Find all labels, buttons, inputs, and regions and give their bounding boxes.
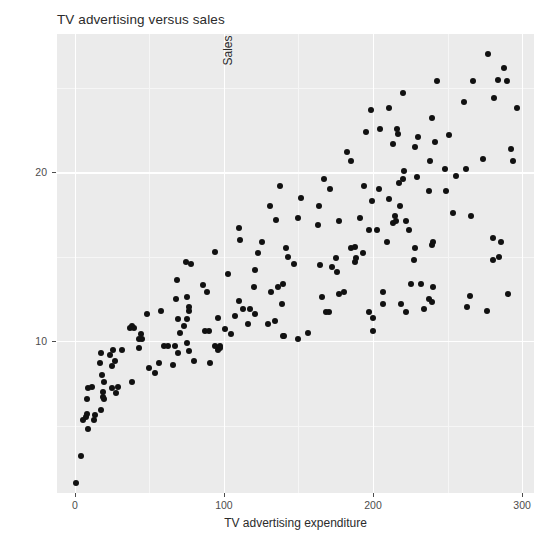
scatter-point bbox=[415, 134, 421, 140]
scatter-point bbox=[109, 363, 115, 369]
scatter-point bbox=[514, 105, 520, 111]
scatter-point bbox=[348, 158, 354, 164]
scatter-point bbox=[129, 379, 135, 385]
scatter-point bbox=[398, 301, 404, 307]
scatter-point bbox=[344, 149, 350, 155]
scatter-point bbox=[85, 426, 91, 432]
scatter-point bbox=[295, 215, 301, 221]
scatter-point bbox=[100, 394, 106, 400]
scatter-point bbox=[429, 299, 435, 305]
gridline-minor-vertical bbox=[448, 34, 449, 493]
gridline-major-vertical bbox=[75, 34, 76, 493]
scatter-point bbox=[259, 239, 265, 245]
plot-panel bbox=[57, 34, 534, 493]
scatter-point bbox=[172, 343, 178, 349]
scatter-point bbox=[268, 289, 274, 295]
scatter-point bbox=[97, 360, 103, 366]
scatter-point bbox=[470, 78, 476, 84]
gridline-minor-vertical bbox=[298, 34, 299, 493]
scatter-point bbox=[485, 51, 491, 57]
scatter-point bbox=[181, 323, 187, 329]
scatter-point bbox=[84, 396, 90, 402]
x-axis-label: TV advertising expenditure bbox=[57, 516, 534, 530]
scatter-point bbox=[501, 65, 507, 71]
scatter-point bbox=[204, 289, 210, 295]
scatter-point bbox=[421, 306, 427, 312]
scatter-point bbox=[505, 291, 511, 297]
scatter-point bbox=[251, 284, 257, 290]
scatter-point bbox=[333, 255, 339, 261]
x-tick-mark bbox=[75, 493, 76, 497]
scatter-point bbox=[508, 146, 514, 152]
scatter-point bbox=[361, 183, 367, 189]
scatter-point bbox=[232, 313, 238, 319]
scatter-point bbox=[429, 115, 435, 121]
scatter-point bbox=[316, 203, 322, 209]
scatter-point bbox=[443, 188, 449, 194]
scatter-point bbox=[319, 294, 325, 300]
gridline-minor-vertical bbox=[149, 34, 150, 493]
scatter-point bbox=[480, 156, 486, 162]
scatter-point bbox=[360, 250, 366, 256]
scatter-point bbox=[186, 304, 192, 310]
scatter-point bbox=[84, 411, 90, 417]
scatter-point bbox=[498, 239, 504, 245]
scatter-point bbox=[393, 218, 399, 224]
scatter-point bbox=[136, 345, 142, 351]
scatter-point bbox=[191, 358, 197, 364]
scatter-point bbox=[400, 90, 406, 96]
scatter-point bbox=[285, 254, 291, 260]
y-tick-label: 10 bbox=[35, 335, 47, 347]
scatter-point bbox=[255, 250, 261, 256]
scatter-point bbox=[317, 262, 323, 268]
y-tick-label: 20 bbox=[35, 166, 47, 178]
scatter-point bbox=[461, 99, 467, 105]
scatter-point bbox=[170, 362, 176, 368]
x-tick-mark bbox=[224, 493, 225, 497]
scatter-point bbox=[426, 188, 432, 194]
scatter-point bbox=[174, 277, 180, 283]
y-tick-mark bbox=[52, 341, 56, 342]
x-tick-label: 100 bbox=[215, 499, 233, 511]
scatter-point bbox=[334, 269, 340, 275]
gridline-minor-horizontal bbox=[57, 426, 534, 427]
scatter-point bbox=[215, 315, 221, 321]
scatter-point bbox=[91, 417, 97, 423]
scatter-point bbox=[408, 281, 414, 287]
scatter-point bbox=[321, 176, 327, 182]
scatter-point bbox=[131, 325, 137, 331]
scatter-point bbox=[327, 186, 333, 192]
scatter-point bbox=[467, 293, 473, 299]
scatter-point bbox=[432, 139, 438, 145]
scatter-point bbox=[113, 390, 119, 396]
gridline-major-vertical bbox=[522, 34, 523, 493]
scatter-point bbox=[374, 227, 380, 233]
scatter-point bbox=[377, 126, 383, 132]
scatter-point bbox=[341, 289, 347, 295]
scatter-point bbox=[414, 174, 420, 180]
scatter-point bbox=[298, 195, 304, 201]
scatter-point bbox=[427, 158, 433, 164]
scatter-point bbox=[403, 309, 409, 315]
scatter-point bbox=[89, 384, 95, 390]
scatter-point bbox=[326, 309, 332, 315]
scatter-point bbox=[390, 141, 396, 147]
scatter-point bbox=[228, 331, 234, 337]
scatter-point bbox=[376, 186, 382, 192]
scatter-point bbox=[158, 308, 164, 314]
x-tick-mark bbox=[373, 493, 374, 497]
scatter-point bbox=[418, 281, 424, 287]
scatter-point bbox=[184, 294, 190, 300]
scatter-point bbox=[98, 407, 104, 413]
scatter-point bbox=[144, 311, 150, 317]
x-tick-label: 0 bbox=[72, 499, 78, 511]
scatter-point bbox=[173, 296, 179, 302]
scatter-point bbox=[146, 365, 152, 371]
scatter-point bbox=[184, 316, 190, 322]
scatter-point bbox=[504, 78, 510, 84]
scatter-point bbox=[252, 311, 258, 317]
scatter-point bbox=[237, 237, 243, 243]
scatter-point bbox=[395, 131, 401, 137]
scatter-point bbox=[78, 453, 84, 459]
gridline-major-horizontal bbox=[57, 172, 534, 173]
